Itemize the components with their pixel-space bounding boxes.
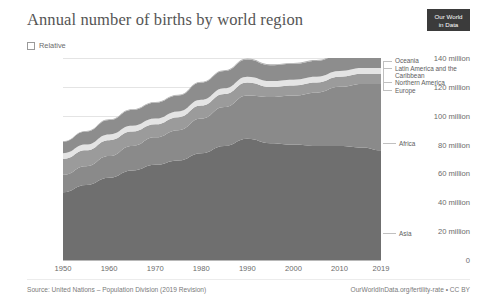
- legend-connector-africa: [383, 143, 396, 144]
- x-tick-label: 2000: [285, 264, 302, 273]
- x-tick-label: 1980: [193, 264, 210, 273]
- plot-area: [63, 58, 381, 260]
- legend-label-latin-america[interactable]: Latin America and the Caribbean: [395, 65, 457, 80]
- y-tick-label: 20 million: [438, 227, 470, 236]
- y-axis: [0, 0, 63, 302]
- legend-label-asia[interactable]: Asia: [399, 230, 411, 237]
- y-tick-label: 60 million: [438, 169, 470, 178]
- legend-label-africa[interactable]: Africa: [399, 140, 415, 147]
- stacked-area-chart: [63, 58, 381, 260]
- legend-label-northern-america[interactable]: Northern America: [395, 79, 445, 86]
- chart-page: Annual number of births by world region …: [0, 0, 478, 302]
- x-tick-label: 1950: [55, 264, 72, 273]
- x-tick-label: 1990: [239, 264, 256, 273]
- footer-source: Source: United Nations – Population Divi…: [27, 286, 206, 293]
- legend-connector-latin-america: [383, 68, 392, 69]
- x-tick-label: 2010: [331, 264, 348, 273]
- owid-logo-line1: Our World: [428, 13, 469, 21]
- x-tick-label: 1970: [147, 264, 164, 273]
- legend-connector-europe: [383, 90, 392, 91]
- y-tick-label: 40 million: [438, 198, 470, 207]
- y-tick-label: 140 million: [434, 54, 470, 63]
- page-title: Annual number of births by world region: [27, 10, 303, 30]
- legend-label-oceania[interactable]: Oceania: [395, 57, 419, 64]
- legend-connector-asia: [383, 233, 396, 234]
- footer-divider: [27, 279, 470, 280]
- owid-logo-line2: in Data: [428, 21, 469, 29]
- y-tick-label: 0: [466, 256, 470, 265]
- x-tick-label: 2019: [373, 264, 390, 273]
- x-tick-label: 1960: [101, 264, 118, 273]
- x-axis-line: [63, 260, 381, 261]
- legend-bracket: [383, 61, 384, 91]
- owid-logo: Our World in Data: [427, 9, 470, 31]
- y-tick-label: 100 million: [434, 111, 470, 120]
- legend-label-europe[interactable]: Europe: [395, 87, 416, 94]
- footer-attribution[interactable]: OurWorldInData.org/fertility-rate • CC B…: [351, 286, 470, 293]
- legend-connector-northern-america: [383, 82, 392, 83]
- legend-connector-oceania: [383, 61, 392, 62]
- y-tick-label: 80 million: [438, 140, 470, 149]
